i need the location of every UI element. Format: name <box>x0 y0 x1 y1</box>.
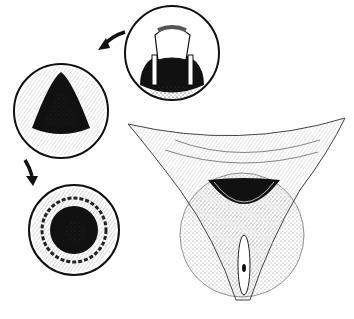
bottom-left-circle-round-opening <box>29 185 119 275</box>
illustration-canvas <box>0 0 354 319</box>
top-right-circle-detail <box>125 6 219 100</box>
middle-left-circle-triangular-opening <box>14 64 108 158</box>
main-cross-section-view <box>128 118 345 300</box>
anatomical-illustration <box>0 0 354 319</box>
arrow-bottom <box>25 160 32 176</box>
